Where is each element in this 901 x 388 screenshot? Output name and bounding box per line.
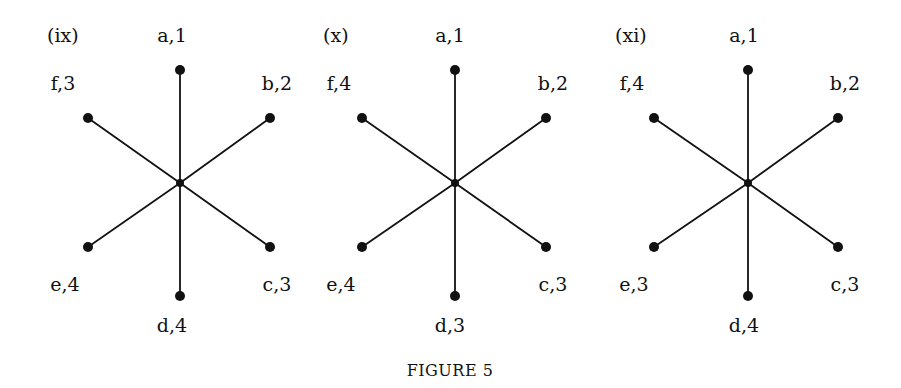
vertex-label-b: b,2 [830, 74, 860, 93]
vertex-label-b: b,2 [262, 74, 292, 93]
vertex-label-e: e,3 [619, 275, 648, 294]
center-vertex [744, 179, 752, 187]
vertex-a [450, 65, 460, 75]
vertex-label-a: a,1 [729, 26, 758, 45]
vertex-label-d: d,4 [157, 316, 187, 335]
edge-center-b [748, 118, 838, 183]
panel-label-ix: (ix) [47, 26, 79, 45]
vertex-c [833, 242, 843, 252]
vertex-label-c: c,3 [263, 275, 292, 294]
vertex-e [83, 242, 93, 252]
vertex-label-b: b,2 [538, 74, 568, 93]
vertex-c [541, 242, 551, 252]
edge-center-f [362, 118, 455, 183]
vertex-a [743, 65, 753, 75]
vertex-label-f: f,4 [327, 74, 351, 93]
edge-center-f [88, 118, 180, 183]
edge-center-e [362, 183, 455, 247]
vertex-label-d: d,4 [729, 316, 759, 335]
vertex-label-c: c,3 [831, 275, 860, 294]
vertex-e [357, 242, 367, 252]
star-graph-ix [83, 65, 275, 301]
vertex-label-a: a,1 [157, 26, 186, 45]
edge-center-b [455, 118, 546, 183]
vertex-d [450, 291, 460, 301]
edge-center-e [88, 183, 180, 247]
vertex-d [175, 291, 185, 301]
vertex-f [83, 113, 93, 123]
vertex-label-f: f,4 [620, 74, 644, 93]
vertex-label-e: e,4 [50, 275, 79, 294]
edge-center-c [748, 183, 838, 247]
vertex-f [357, 113, 367, 123]
panel-label-xi: (xi) [615, 26, 647, 45]
vertex-label-f: f,3 [51, 74, 75, 93]
vertex-f [649, 113, 659, 123]
vertex-b [265, 113, 275, 123]
vertex-d [743, 291, 753, 301]
panel-label-x: (x) [323, 26, 349, 45]
edge-center-c [455, 183, 546, 247]
vertex-b [541, 113, 551, 123]
vertex-label-a: a,1 [435, 26, 464, 45]
vertex-c [265, 242, 275, 252]
figure-caption: FIGURE 5 [407, 361, 494, 380]
vertex-b [833, 113, 843, 123]
edge-center-e [654, 183, 748, 247]
edge-center-b [180, 118, 270, 183]
edge-center-f [654, 118, 748, 183]
center-vertex [451, 179, 459, 187]
vertex-label-d: d,3 [435, 316, 465, 335]
edge-center-c [180, 183, 270, 247]
star-graph-xi [649, 65, 843, 301]
star-graph-x [357, 65, 551, 301]
vertex-e [649, 242, 659, 252]
vertex-a [175, 65, 185, 75]
center-vertex [176, 179, 184, 187]
vertex-label-e: e,4 [326, 275, 355, 294]
vertex-label-c: c,3 [539, 275, 568, 294]
